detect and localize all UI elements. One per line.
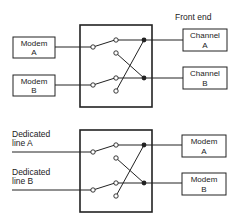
bottom-switch-box xyxy=(80,130,152,212)
switch-contact-icon xyxy=(114,143,118,147)
switch-pivot-icon xyxy=(91,150,95,154)
switch-contact-icon xyxy=(114,181,118,185)
diagram-canvas: Front end Modem A Modem B xyxy=(0,0,240,221)
junction-dot-icon xyxy=(142,76,147,81)
top-switch-box xyxy=(80,25,152,107)
modem-a-box: Modem A xyxy=(13,37,55,58)
junction-dot-icon xyxy=(142,143,147,148)
junction-dot-icon xyxy=(142,181,147,186)
modem-b-box: Modem B xyxy=(13,75,55,96)
switch-pivot-icon xyxy=(91,188,95,192)
svg-text:Channel: Channel xyxy=(190,31,220,40)
svg-text:Channel: Channel xyxy=(190,69,220,78)
switch-contact-icon xyxy=(114,38,118,42)
front-end-label: Front end xyxy=(175,12,212,22)
bottom-modem-a-box: Modem A xyxy=(182,135,226,157)
svg-text:line B: line B xyxy=(12,176,34,186)
svg-text:A: A xyxy=(31,48,37,57)
channel-a-box: Channel A xyxy=(183,29,227,51)
top-section: Front end Modem A Modem B xyxy=(13,12,227,107)
svg-text:Modem: Modem xyxy=(191,175,218,184)
switch-contact-icon xyxy=(114,194,118,198)
svg-text:Modem: Modem xyxy=(21,39,48,48)
svg-text:A: A xyxy=(202,41,208,50)
svg-text:B: B xyxy=(31,86,36,95)
svg-text:B: B xyxy=(201,185,206,194)
channel-b-box: Channel B xyxy=(183,67,227,89)
switch-contact-icon xyxy=(114,156,118,160)
svg-text:A: A xyxy=(201,147,207,156)
junction-dot-icon xyxy=(142,38,147,43)
svg-text:line A: line A xyxy=(12,138,33,148)
switch-contact-icon xyxy=(114,51,118,55)
bottom-modem-b-box: Modem B xyxy=(182,173,226,195)
switch-contact-icon xyxy=(114,76,118,80)
svg-text:Modem: Modem xyxy=(21,77,48,86)
bottom-section: Dedicated line A Dedicated line B Mo xyxy=(12,129,226,212)
switch-contact-icon xyxy=(114,89,118,93)
svg-text:B: B xyxy=(202,79,207,88)
switch-pivot-icon xyxy=(91,83,95,87)
svg-text:Modem: Modem xyxy=(191,137,218,146)
switch-pivot-icon xyxy=(91,45,95,49)
